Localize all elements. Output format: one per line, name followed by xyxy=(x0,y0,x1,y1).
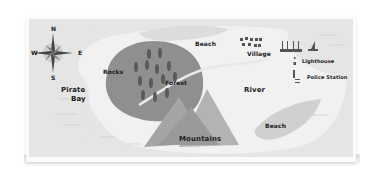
label-rocks: Rocks xyxy=(103,69,123,75)
label-pirate-bay-line2: Bay xyxy=(71,96,86,103)
label-beach-south: Beach xyxy=(265,123,286,129)
label-mountains: Mountains xyxy=(179,136,221,143)
island-map: N S E W Rocks Forest Beach Village Light… xyxy=(29,19,353,157)
label-lighthouse: Lighthouse xyxy=(302,59,334,64)
label-police-station: Police Station xyxy=(307,75,348,80)
label-village: Village xyxy=(247,51,271,57)
compass-west: W xyxy=(31,50,38,56)
compass-east: E xyxy=(78,50,82,56)
label-beach-north: Beach xyxy=(195,41,216,47)
forest-area xyxy=(106,41,203,121)
compass-north: N xyxy=(51,26,56,32)
map-frame: N S E W Rocks Forest Beach Village Light… xyxy=(26,16,356,162)
label-pirate-bay-line1: Pirate xyxy=(61,87,85,94)
label-forest: Forest xyxy=(165,80,187,86)
label-river: River xyxy=(244,87,265,94)
compass-south: S xyxy=(51,75,55,81)
